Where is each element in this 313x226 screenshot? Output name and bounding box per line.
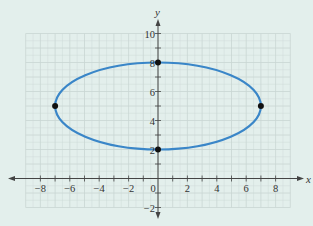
y-tick-label: 8 xyxy=(150,58,155,69)
data-point xyxy=(155,60,161,66)
x-tick-label: 0 xyxy=(150,183,155,194)
data-point xyxy=(258,103,264,109)
x-tick-label: 2 xyxy=(185,183,190,194)
x-axis-label: x xyxy=(305,173,311,185)
y-tick-label: 6 xyxy=(150,87,155,98)
data-point xyxy=(52,103,58,109)
y-tick-label: 4 xyxy=(150,116,156,127)
y-axis-up-arrow-icon xyxy=(156,19,161,26)
x-tick-label: −8 xyxy=(35,183,46,194)
x-tick-label: 8 xyxy=(273,183,278,194)
x-axis-left-arrow-icon xyxy=(8,176,15,181)
axes: xy xyxy=(8,6,311,219)
x-tick-label: 6 xyxy=(244,183,249,194)
x-tick-label: −4 xyxy=(94,183,106,194)
x-axis-right-arrow-icon xyxy=(297,176,304,181)
y-tick-label: 10 xyxy=(145,29,156,40)
y-tick-label: −2 xyxy=(144,203,155,214)
y-axis-down-arrow-icon xyxy=(156,212,161,219)
data-point xyxy=(155,147,161,153)
x-tick-label: 4 xyxy=(214,183,220,194)
y-axis-label: y xyxy=(154,6,160,18)
ellipse-chart: xy −8−6−4−202468−2246810 xyxy=(0,0,313,226)
x-tick-label: −6 xyxy=(64,183,75,194)
x-tick-label: −2 xyxy=(123,183,134,194)
y-tick-label: 2 xyxy=(150,145,155,156)
